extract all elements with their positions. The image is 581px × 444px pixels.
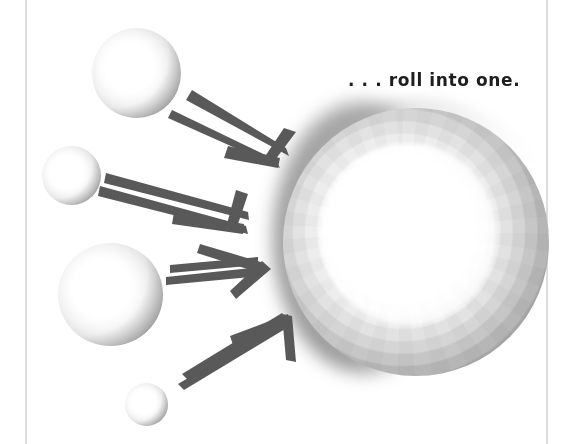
left-margin-rule: [25, 0, 27, 444]
arrow-from-lower-left-sphere: [164, 243, 280, 309]
small-sphere-bottom: [125, 383, 168, 426]
illustration-canvas: . . . roll into one.: [0, 0, 581, 444]
arrow-from-bottom-sphere: [176, 312, 304, 390]
sphere-shade: [125, 383, 168, 426]
sphere-shade: [58, 243, 163, 346]
arrow-from-top-sphere: [168, 88, 308, 174]
small-sphere-upper-left: [42, 146, 101, 205]
merged-sphere-highlight: [320, 143, 496, 325]
small-sphere-lower-left: [58, 243, 163, 346]
caption-text: . . . roll into one.: [348, 70, 520, 90]
arrow-from-upper-left-sphere: [96, 172, 266, 236]
merged-sphere: [283, 108, 549, 376]
sphere-shade: [42, 146, 101, 205]
